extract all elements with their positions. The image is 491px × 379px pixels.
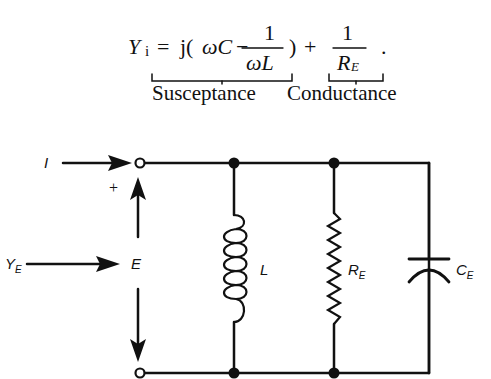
capacitor-label: CE: [456, 262, 474, 281]
junction-node-bottom-left: [229, 368, 240, 379]
plus-sign-label: +: [109, 180, 118, 196]
voltage-label: E: [131, 256, 141, 271]
admittance-label: YE: [5, 256, 22, 275]
junction-node-top-right: [329, 158, 340, 169]
conductance-brace: [329, 74, 383, 81]
circuit-diagram: [0, 0, 491, 379]
terminal-top: [136, 159, 145, 168]
resistor-zigzag: [328, 213, 340, 324]
junction-node-bottom-right: [329, 368, 340, 379]
inductor-label: L: [260, 262, 268, 277]
resistor-label: RE: [348, 262, 366, 281]
current-label: I: [44, 155, 48, 170]
inductor-coil: [224, 215, 247, 322]
junction-node-top-left: [229, 158, 240, 169]
susceptance-brace: [152, 74, 292, 81]
terminal-bottom: [136, 369, 145, 378]
